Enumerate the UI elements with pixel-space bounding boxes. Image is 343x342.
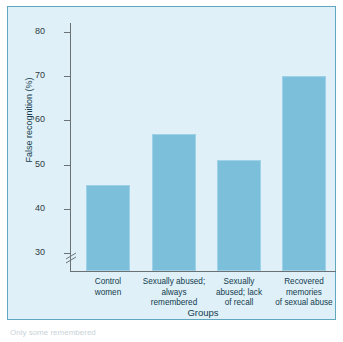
bar-control-women <box>86 185 130 271</box>
bar-recovered-memories <box>282 76 326 271</box>
bar-sexually-abused-lack-of-recall <box>217 160 261 271</box>
x-axis-line <box>70 271 336 272</box>
caption-fragment: Only some remembered <box>10 328 310 337</box>
y-axis-title: False recognition (%) <box>24 65 34 175</box>
x-category-label-1-line-0: Sexually abused; <box>136 277 212 288</box>
y-tick-60 <box>64 120 70 121</box>
y-axis-line <box>70 23 71 271</box>
x-axis-title: Groups <box>70 307 336 318</box>
x-category-label-0: Control women <box>76 277 140 298</box>
x-category-label-0-line-0: Control <box>76 277 140 288</box>
x-category-label-2: Sexually abused; lack of recall <box>205 277 273 309</box>
y-tick-label-30: 30 <box>5 248 45 257</box>
x-category-label-1-line-1: always <box>136 288 212 299</box>
y-tick-70 <box>64 76 70 77</box>
y-tick-80 <box>64 32 70 33</box>
y-tick-label-80: 80 <box>5 27 45 36</box>
y-tick-40 <box>64 209 70 210</box>
axis-break-icon <box>65 250 77 266</box>
figure-container: 80 70 60 50 40 30 Control wome <box>0 0 343 342</box>
x-category-label-3-line-0: Recovered <box>267 277 341 288</box>
plot-area: 80 70 60 50 40 30 Control wome <box>8 7 335 319</box>
chart-panel: 80 70 60 50 40 30 Control wome <box>7 6 336 320</box>
x-category-label-3-line-1: memories <box>267 288 341 299</box>
x-category-label-3: Recovered memories of sexual abuse <box>267 277 341 309</box>
x-category-label-2-line-1: abused; lack <box>205 288 273 299</box>
x-category-label-2-line-0: Sexually <box>205 277 273 288</box>
y-tick-label-40: 40 <box>5 204 45 213</box>
y-tick-50 <box>64 165 70 166</box>
x-category-label-0-line-1: women <box>76 288 140 299</box>
x-category-label-1: Sexually abused; always remembered <box>136 277 212 309</box>
bar-sexually-abused-always-remembered <box>152 134 196 271</box>
